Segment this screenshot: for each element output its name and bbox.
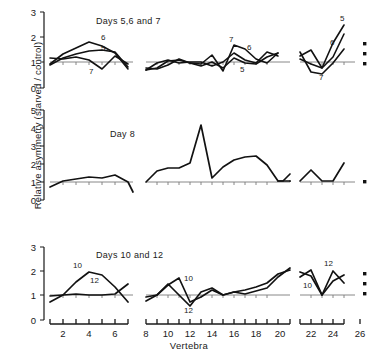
panel1-curvelabel-7: 6 — [330, 38, 335, 47]
panel3-curvelabel-5: 10 — [303, 281, 312, 290]
y-axis-label: Relative asymmetry (starved / control) — [32, 31, 43, 221]
panel3-curvelabel-4: 12 — [324, 259, 333, 268]
panel2-title: Day 8 — [110, 129, 135, 139]
xtick-10: 10 — [163, 328, 174, 339]
panel2-right-dots — [363, 180, 366, 183]
panel1-curvelabel-1: 5 — [101, 44, 106, 53]
panel1-right-dots — [363, 42, 366, 65]
curve-day8-seg2 — [146, 125, 290, 182]
xtick-8: 8 — [143, 328, 148, 339]
panel3-ytick-0: 0 — [31, 315, 36, 326]
panel1-title: Days 5,6 and 7 — [96, 16, 161, 26]
panel1-curvelabel-8: 7 — [319, 73, 324, 82]
xtick-26: 26 — [355, 328, 366, 339]
xtick-18: 18 — [251, 328, 262, 339]
panel1-curvelabel-3: 7 — [229, 35, 234, 44]
xtick-22: 22 — [306, 328, 317, 339]
xtick-6: 6 — [112, 328, 117, 339]
chart-svg: 3 2 1 0 Days 5,6 and 7 — [0, 0, 378, 358]
panel1-curvelabel-0: 6 — [101, 33, 106, 42]
panel1-curvelabel-2: 7 — [89, 67, 94, 76]
panel3-curvelabel-2: 10 — [184, 274, 193, 283]
xtick-24: 24 — [328, 328, 339, 339]
x-axis-tick-labels: 2 4 6 8 10 12 14 16 18 20 22 24 26 — [60, 328, 365, 339]
panel3-ytick-2: 2 — [31, 266, 36, 277]
x-axis-label: Vertebra — [0, 340, 378, 351]
panel1-curvelabel-5: 5 — [240, 65, 245, 74]
panel3-curvelabel-1: 12 — [90, 276, 99, 285]
curve-day12-seg1 — [50, 284, 128, 296]
panel1-ytick-3: 3 — [31, 7, 36, 18]
xtick-14: 14 — [207, 328, 218, 339]
panel3-ytick-1: 1 — [31, 290, 36, 301]
xtick-2: 2 — [60, 328, 65, 339]
xtick-4: 4 — [86, 328, 91, 339]
curve-day8-seg1 — [50, 175, 133, 192]
panel3-curvelabel-3: 12 — [184, 306, 193, 315]
figure-container: Relative asymmetry (starved / control) V… — [0, 0, 378, 358]
curve-day8-seg3 — [300, 163, 344, 181]
panel-day-8: 5 4 3 2 1 0 Day 8 — [31, 105, 367, 206]
panel-days-10-12: 3 2 1 0 Days 10 and 12 — [31, 242, 367, 326]
panel3-title: Days 10 and 12 — [96, 250, 163, 260]
panel1-curvelabel-6: 5 — [340, 14, 345, 23]
curve-day7-seg2 — [146, 45, 278, 71]
panel3-curvelabel-0: 10 — [73, 261, 82, 270]
curve-day12-seg2 — [146, 270, 290, 306]
panel3-right-dots — [363, 272, 366, 295]
xtick-20: 20 — [275, 328, 286, 339]
panel3-ytick-3: 3 — [31, 242, 36, 253]
xtick-16: 16 — [229, 328, 240, 339]
panel-days-5-6-7: 3 2 1 0 Days 5,6 and 7 — [31, 7, 367, 94]
xtick-12: 12 — [185, 328, 196, 339]
panel1-curvelabel-4: 6 — [247, 43, 252, 52]
x-axis — [50, 319, 360, 324]
